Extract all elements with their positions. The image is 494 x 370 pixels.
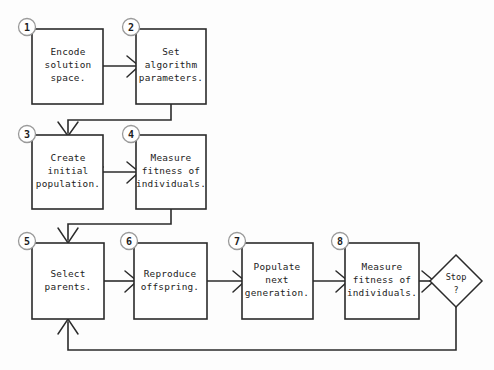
node-2-line-2: algorithm	[145, 59, 198, 70]
node-create-initial-population[interactable]: Create initial population. 3	[19, 126, 104, 210]
step-number-5: 5	[24, 236, 30, 247]
node-8-line-3: individuals.	[347, 287, 417, 298]
node-set-algorithm-parameters[interactable]: Set algorithm parameters. 2	[123, 19, 207, 105]
node-3-line-3: population.	[36, 178, 100, 189]
node-3-line-1: Create	[50, 152, 85, 163]
node-reproduce-offspring[interactable]: Reproduce offspring. 6	[121, 233, 208, 320]
step-number-7: 7	[234, 236, 240, 247]
node-7-line-2: next	[265, 274, 288, 285]
flowchart-canvas: Encode solution space. 1 Set algorithm p…	[0, 0, 494, 370]
node-4-line-3: individuals.	[136, 178, 206, 189]
decision-line-1: Stop	[446, 272, 467, 282]
node-1-line-3: space.	[50, 72, 85, 83]
node-5-line-1: Select	[50, 268, 85, 279]
node-7-line-3: generation.	[245, 287, 309, 298]
node-8-line-2: fitness of	[353, 274, 411, 285]
step-number-4: 4	[128, 129, 134, 140]
node-1-line-2: solution	[45, 59, 92, 70]
node-6-line-1: Reproduce	[144, 268, 197, 279]
node-2-line-3: parameters.	[139, 72, 203, 83]
step-number-6: 6	[126, 236, 132, 247]
node-8-line-1: Measure	[362, 261, 403, 272]
node-5-line-2: parents.	[45, 281, 92, 292]
step-number-2: 2	[128, 22, 134, 33]
node-7-line-1: Populate	[254, 261, 301, 272]
edge-set-to-create	[68, 104, 171, 133]
node-measure-fitness-generation[interactable]: Measure fitness of individuals. 8	[332, 233, 420, 320]
step-number-1: 1	[24, 22, 30, 33]
node-2-line-1: Set	[162, 46, 180, 57]
node-select-parents[interactable]: Select parents. 5	[19, 233, 105, 320]
node-3-line-2: initial	[48, 165, 89, 176]
node-stop-decision[interactable]: Stop ?	[430, 255, 482, 307]
node-populate-next-generation[interactable]: Populate next generation. 7	[229, 233, 314, 320]
decision-line-2: ?	[453, 285, 458, 295]
flowchart-svg: Encode solution space. 1 Set algorithm p…	[0, 0, 494, 370]
edge-measure-to-select	[68, 209, 171, 240]
node-1-line-1: Encode	[50, 46, 85, 57]
node-6-line-2: offspring.	[141, 281, 199, 292]
step-number-8: 8	[337, 236, 343, 247]
step-number-3: 3	[24, 129, 30, 140]
node-layer: Encode solution space. 1 Set algorithm p…	[19, 19, 483, 320]
node-4-line-1: Measure	[151, 152, 192, 163]
node-encode-solution-space[interactable]: Encode solution space. 1	[19, 19, 104, 105]
node-measure-fitness-initial[interactable]: Measure fitness of individuals. 4	[123, 126, 207, 210]
node-4-line-2: fitness of	[142, 165, 200, 176]
